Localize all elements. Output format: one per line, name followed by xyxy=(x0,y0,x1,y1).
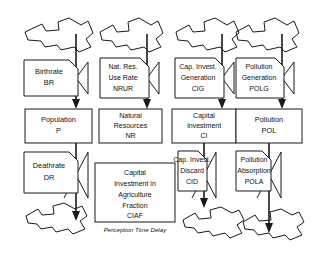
rate-flag-cig: Cap. Invest. Generation CIG xyxy=(175,58,224,98)
system-dynamics-diagram: Birthrate BR Nat. Res. Use Rate NRUR Cap… xyxy=(0,0,312,261)
rate-flag-cid: Cap. Invest. Discard CID xyxy=(173,151,210,191)
aux-label-ciaf-line1: Capital xyxy=(124,169,146,177)
rate-label-deathrate-line1: Deathrate xyxy=(33,161,65,170)
rate-label-pola-line2: Absorption xyxy=(237,167,271,175)
rate-label-deathrate-line2: DR xyxy=(44,173,55,182)
rate-label-polg-line2: Generation xyxy=(242,74,277,81)
annotation-perception-time-delay: Perception Time Delay xyxy=(104,226,167,233)
stock-label-natres-line2: Resources xyxy=(114,122,148,129)
rate-label-polg-line3: POLG xyxy=(249,85,268,92)
cloud-sink-deathrate xyxy=(26,203,87,234)
stock-label-population-line2: P xyxy=(56,126,61,135)
rate-label-pola-line1: Pollution xyxy=(241,156,268,163)
cloud-source-birthrate xyxy=(25,18,93,52)
cloud-source-polg xyxy=(236,18,299,52)
rate-flag-birthrate: Birthrate BR xyxy=(24,60,78,96)
stock-label-capinvest-line2: Investment xyxy=(187,122,221,129)
rate-label-pola-line3: POLA xyxy=(245,178,264,185)
rate-label-cig-line3: CIG xyxy=(192,85,204,92)
rate-flag-pola: Pollution Absorption POLA xyxy=(236,151,271,191)
stock-label-capinvest-line3: CI xyxy=(201,132,208,139)
rate-label-nrur-line3: NRUR xyxy=(113,85,133,92)
stock-label-capinvest-line1: Capital xyxy=(193,112,215,120)
rate-label-polg-line1: Pollution xyxy=(246,63,273,70)
aux-label-ciaf-line4: Fraction xyxy=(122,202,147,209)
rate-flag-nrur: Nat. Res. Use Rate NRUR xyxy=(100,58,149,98)
rate-flag-deathrate: Deathrate DR xyxy=(24,152,78,193)
diagram-canvas: Birthrate BR Nat. Res. Use Rate NRUR Cap… xyxy=(0,0,312,261)
rate-label-birthrate-line2: BR xyxy=(44,78,54,87)
rate-label-cid-line2: Discard xyxy=(180,167,204,174)
rate-label-cig-line2: Generation xyxy=(181,74,216,81)
cloud-sink-pola xyxy=(243,209,304,240)
cloud-source-nrur xyxy=(100,18,163,52)
stock-label-pollution-line2: POL xyxy=(262,126,277,135)
cloud-source-cig xyxy=(176,18,239,52)
aux-label-ciaf-line3: Agriculture xyxy=(118,191,152,199)
stock-label-population-line1: Population xyxy=(41,115,76,124)
stock-box-pollution: Pollution POL xyxy=(236,109,302,143)
stock-box-capital-investment: Capital Investment CI xyxy=(172,109,236,143)
stock-label-pollution-line1: Pollution xyxy=(255,115,283,124)
rate-label-cid-line3: CID xyxy=(186,178,198,185)
rate-flag-polg: Pollution Generation POLG xyxy=(236,58,284,98)
stock-box-natural-resources: Natural Resources NR xyxy=(99,109,162,143)
stock-label-natres-line3: NR xyxy=(125,132,135,139)
auxiliary-box-ciaf: Capital Investment in Agriculture Fracti… xyxy=(95,163,175,222)
aux-label-ciaf-line2: Investment in xyxy=(114,180,156,187)
rate-label-cid-line1: Cap. Invest. xyxy=(173,156,210,164)
stock-box-population: Population P xyxy=(25,109,92,143)
rate-label-nrur-line2: Use Rate xyxy=(108,74,137,81)
cloud-sink-cid xyxy=(183,207,244,238)
rate-label-nrur-line1: Nat. Res. xyxy=(108,63,137,70)
rate-label-cig-line1: Cap. Invest. xyxy=(179,63,216,71)
aux-label-ciaf-line5: CIAF xyxy=(127,212,143,219)
rate-label-birthrate-line1: Birthrate xyxy=(35,67,63,76)
stock-label-natres-line1: Natural xyxy=(119,112,142,119)
